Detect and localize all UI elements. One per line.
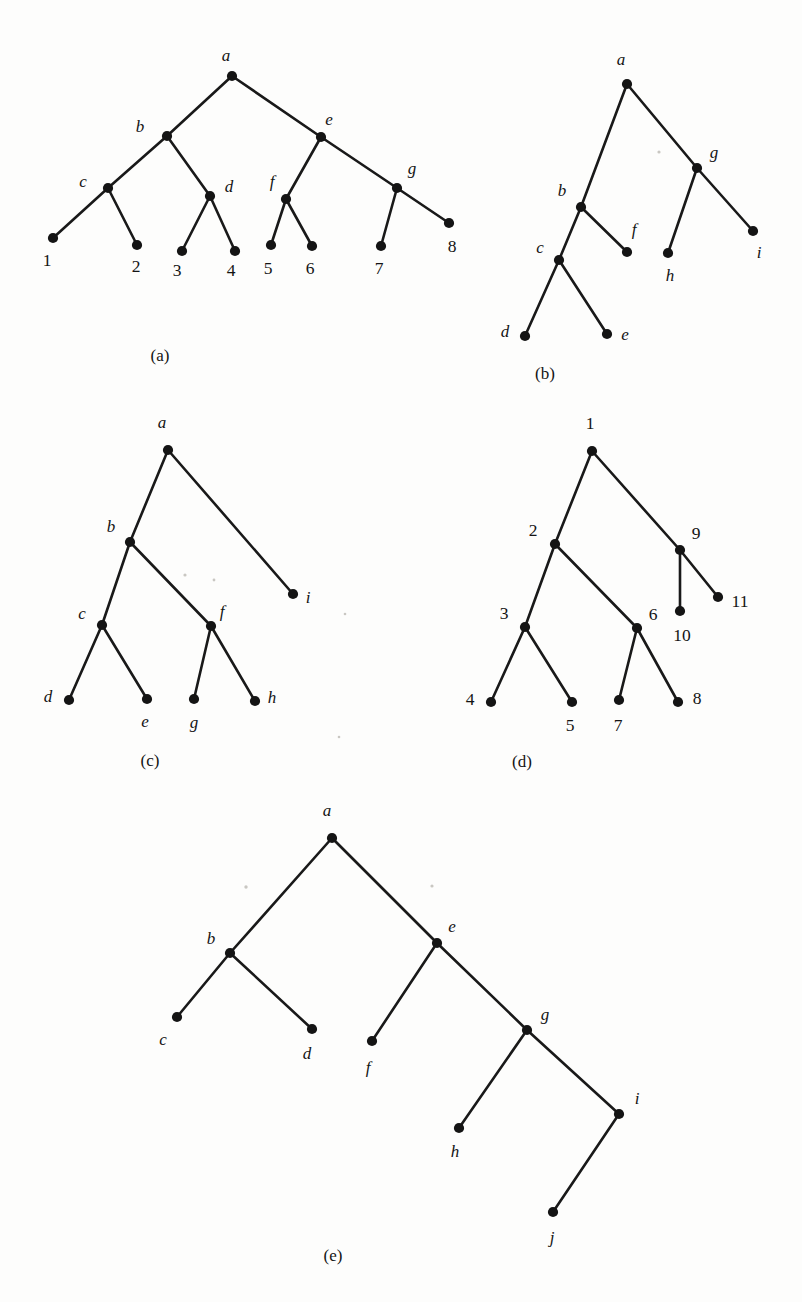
tree-node-d[interactable]: d [303, 1024, 317, 1063]
tree-node-n7[interactable]: 7 [375, 241, 386, 278]
vertex-dot[interactable] [206, 621, 216, 631]
tree-node-n9[interactable]: 9 [675, 523, 701, 555]
tree-node-n2[interactable]: 2 [132, 240, 142, 276]
tree-node-n3[interactable]: 3 [500, 603, 530, 632]
tree-node-d[interactable]: d [44, 687, 74, 706]
tree-node-h[interactable]: h [451, 1123, 464, 1161]
tree-node-g[interactable]: g [189, 694, 199, 732]
vertex-dot[interactable] [444, 218, 454, 228]
vertex-dot[interactable] [205, 191, 215, 201]
vertex-dot[interactable] [567, 697, 577, 707]
tree-node-e[interactable]: e [432, 917, 456, 948]
vertex-dot[interactable] [48, 233, 58, 243]
tree-node-i[interactable]: i [614, 1089, 640, 1119]
vertex-dot[interactable] [367, 1036, 377, 1046]
tree-node-n1[interactable]: 1 [43, 233, 58, 270]
vertex-dot[interactable] [177, 246, 187, 256]
vertex-dot[interactable] [142, 694, 152, 704]
tree-node-n10[interactable]: 10 [673, 606, 691, 645]
vertex-dot[interactable] [675, 606, 685, 616]
tree-node-h[interactable]: h [663, 248, 674, 285]
tree-node-g[interactable]: g [522, 1005, 549, 1035]
tree-node-n11[interactable]: 11 [713, 591, 749, 611]
tree-node-n8[interactable]: 8 [444, 218, 457, 256]
tree-node-n6[interactable]: 6 [306, 241, 317, 278]
tree-node-i[interactable]: i [748, 226, 762, 262]
vertex-dot[interactable] [281, 194, 291, 204]
tree-node-e[interactable]: e [141, 694, 152, 731]
tree-node-n4[interactable]: 4 [227, 246, 240, 280]
vertex-dot[interactable] [520, 622, 530, 632]
tree-node-n8[interactable]: 8 [673, 688, 702, 708]
vertex-dot[interactable] [486, 697, 496, 707]
vertex-dot[interactable] [172, 1012, 182, 1022]
vertex-dot[interactable] [454, 1123, 464, 1133]
vertex-dot[interactable] [675, 545, 685, 555]
vertex-dot[interactable] [288, 589, 298, 599]
tree-node-a[interactable]: a [323, 801, 337, 843]
tree-node-b[interactable]: b [207, 929, 235, 958]
tree-node-f[interactable]: f [270, 172, 291, 204]
vertex-dot[interactable] [550, 539, 560, 549]
tree-node-d[interactable]: d [501, 322, 530, 341]
vertex-dot[interactable] [376, 241, 386, 251]
tree-node-c[interactable]: c [536, 238, 564, 265]
vertex-dot[interactable] [225, 948, 235, 958]
vertex-dot[interactable] [307, 1024, 317, 1034]
tree-node-b[interactable]: b [136, 117, 172, 141]
tree-node-n5[interactable]: 5 [264, 240, 276, 278]
vertex-dot[interactable] [622, 247, 632, 257]
tree-node-i[interactable]: i [288, 588, 311, 607]
vertex-dot[interactable] [576, 202, 586, 212]
vertex-dot[interactable] [163, 445, 173, 455]
tree-node-e[interactable]: e [602, 325, 629, 344]
vertex-dot[interactable] [673, 697, 683, 707]
tree-node-e[interactable]: e [316, 110, 333, 142]
vertex-dot[interactable] [327, 833, 337, 843]
vertex-dot[interactable] [554, 255, 564, 265]
tree-node-b[interactable]: b [107, 517, 135, 547]
vertex-dot[interactable] [587, 446, 597, 456]
tree-node-n2[interactable]: 2 [529, 520, 560, 549]
tree-node-n1[interactable]: 1 [586, 413, 597, 456]
tree-node-f[interactable]: f [206, 602, 227, 631]
vertex-dot[interactable] [614, 1109, 624, 1119]
vertex-dot[interactable] [227, 71, 237, 81]
tree-node-n5[interactable]: 5 [566, 697, 577, 735]
tree-node-n3[interactable]: 3 [173, 246, 187, 280]
tree-node-g[interactable]: g [392, 159, 416, 193]
vertex-dot[interactable] [614, 695, 624, 705]
vertex-dot[interactable] [230, 246, 240, 256]
vertex-dot[interactable] [663, 248, 673, 258]
vertex-dot[interactable] [64, 695, 74, 705]
vertex-dot[interactable] [250, 696, 260, 706]
tree-node-c[interactable]: c [79, 172, 113, 193]
vertex-dot[interactable] [307, 241, 317, 251]
tree-node-n6[interactable]: 6 [632, 604, 658, 633]
tree-node-a[interactable]: a [222, 46, 237, 81]
vertex-dot[interactable] [125, 537, 135, 547]
tree-node-b[interactable]: b [558, 181, 586, 212]
vertex-dot[interactable] [103, 183, 113, 193]
vertex-dot[interactable] [97, 620, 107, 630]
vertex-dot[interactable] [622, 79, 632, 89]
tree-node-n7[interactable]: 7 [614, 695, 624, 735]
vertex-dot[interactable] [162, 131, 172, 141]
vertex-dot[interactable] [189, 694, 199, 704]
vertex-dot[interactable] [520, 331, 530, 341]
vertex-dot[interactable] [632, 623, 642, 633]
vertex-dot[interactable] [713, 592, 723, 602]
vertex-dot[interactable] [602, 329, 612, 339]
tree-node-f[interactable]: f [366, 1036, 377, 1077]
tree-node-n4[interactable]: 4 [466, 689, 496, 709]
tree-node-d[interactable]: d [205, 177, 234, 201]
vertex-dot[interactable] [266, 240, 276, 250]
vertex-dot[interactable] [392, 183, 402, 193]
vertex-dot[interactable] [432, 938, 442, 948]
vertex-dot[interactable] [748, 226, 758, 236]
vertex-dot[interactable] [316, 132, 326, 142]
tree-node-f[interactable]: f [622, 220, 639, 257]
tree-node-j[interactable]: j [548, 1207, 558, 1247]
tree-node-c[interactable]: c [78, 604, 107, 630]
tree-node-a[interactable]: a [158, 413, 173, 455]
